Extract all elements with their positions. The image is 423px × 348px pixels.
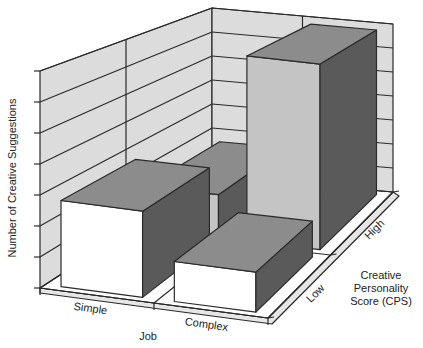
x-tick-simple: Simple xyxy=(73,300,108,317)
z-axis-label-line1: Creative xyxy=(361,269,402,281)
y-axis-label: Number of Creative Suggestions xyxy=(6,98,18,257)
z-axis-label-line2: Personality xyxy=(354,282,409,294)
creative-suggestions-3d-bar-chart: Number of Creative Suggestions Simple Co… xyxy=(0,0,423,348)
z-tick xyxy=(393,191,399,192)
bar-simple-low-front-face xyxy=(61,200,143,297)
z-axis-label-line3: Score (CPS) xyxy=(350,295,412,307)
x-axis-label: Job xyxy=(139,330,157,342)
